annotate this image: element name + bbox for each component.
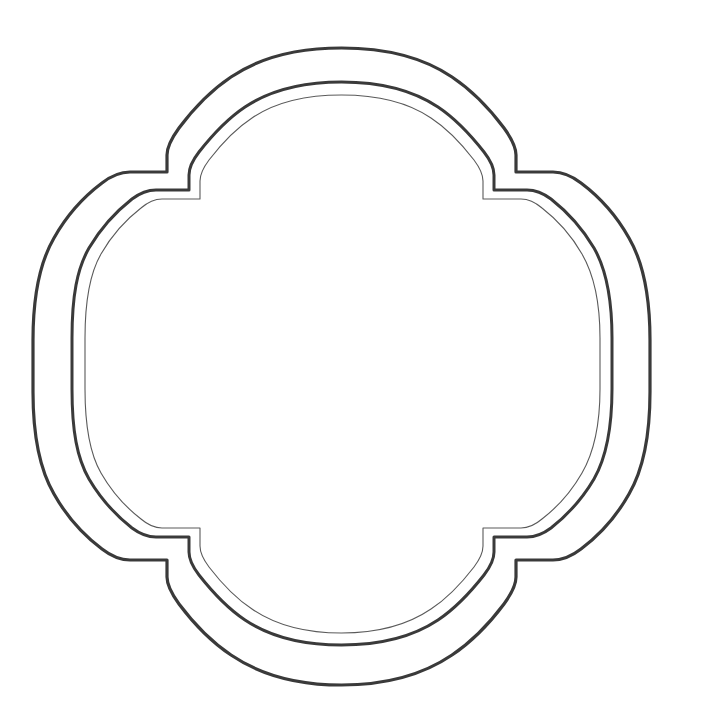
ornamental-frame-canvas bbox=[0, 0, 701, 725]
ornamental-frame-graphic bbox=[0, 0, 701, 725]
canvas-background bbox=[0, 0, 701, 725]
